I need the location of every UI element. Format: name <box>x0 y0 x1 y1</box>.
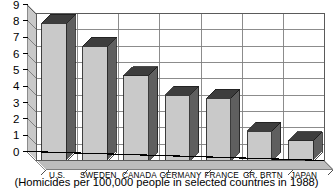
bar-side-face <box>107 37 116 160</box>
chart-caption: (Homicides per 100,000 people in selecte… <box>14 176 318 188</box>
left-wall-face <box>28 5 37 161</box>
bar-side-face <box>66 14 75 160</box>
bar-germany <box>165 86 199 160</box>
chart-floor <box>37 161 333 170</box>
y-tick-label: 9 <box>13 0 19 11</box>
bar-side-face <box>149 67 158 161</box>
y-tick-label: 4 <box>13 80 20 92</box>
bar-front-face <box>288 141 313 161</box>
bar-u-s <box>42 14 76 160</box>
bar-side-face <box>231 89 240 160</box>
y-tick-label: 2 <box>13 113 19 125</box>
bar-front-face <box>42 23 67 160</box>
y-tick-label: 8 <box>13 15 19 27</box>
y-tick-label: 5 <box>13 64 19 76</box>
bar-front-face <box>83 46 108 160</box>
bar-side-face <box>190 86 199 160</box>
bar-sweden <box>83 37 117 160</box>
y-tick-label: 3 <box>13 97 19 109</box>
y-tick-label: 1 <box>13 129 19 141</box>
bar-france <box>206 89 240 160</box>
bar-japan <box>288 132 322 161</box>
y-tick-label: 7 <box>13 31 19 43</box>
bar-front-face <box>206 98 231 160</box>
bar-front-face <box>124 76 149 161</box>
y-tick-label: 0 <box>13 146 19 158</box>
bar-front-face <box>247 131 272 160</box>
chart-left-wall <box>28 5 37 161</box>
y-tick-label: 6 <box>13 48 19 60</box>
bar-gr-brtn <box>247 122 281 160</box>
bar-canada <box>124 67 158 161</box>
bar-chart: 0123456789 U.S.SWEDENCANADAGERMANYFRANCE… <box>0 0 333 193</box>
floor-face <box>37 161 333 170</box>
chart-figure: 0123456789 U.S.SWEDENCANADAGERMANYFRANCE… <box>0 0 333 193</box>
bar-front-face <box>165 95 190 160</box>
